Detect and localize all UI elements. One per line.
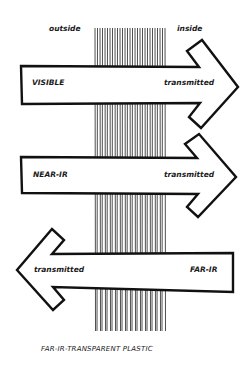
inside-label: inside [177, 25, 202, 33]
far-ir-label: FAR-IR [190, 266, 217, 274]
outside-label: outside [49, 25, 81, 33]
visible-label: VISIBLE [32, 79, 64, 87]
far-ir-transmitted-label: transmitted [34, 266, 84, 274]
visible-transmitted-label: transmitted [164, 79, 214, 87]
diagram-canvas [0, 0, 251, 374]
diagram-caption: FAR-IR-TRANSPARENT PLASTIC [41, 346, 153, 353]
near-ir-transmitted-label: transmitted [164, 171, 214, 179]
near-ir-label: NEAR-IR [33, 171, 68, 179]
